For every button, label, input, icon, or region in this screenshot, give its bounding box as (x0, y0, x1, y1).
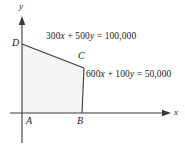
constraint-equation-2-label: 600x + 100y = 50,000 (86, 70, 171, 80)
vertex-label-D: D (12, 38, 19, 48)
eq2-var-x: x (101, 69, 105, 79)
vertex-label-C: C (78, 51, 85, 61)
constraint-equation-1-label: 300x + 500y = 100,000 (46, 32, 136, 42)
feasible-region-polygon (22, 44, 84, 113)
vertex-label-B: B (77, 116, 83, 126)
x-axis-arrowhead-icon (162, 110, 171, 117)
eq2-coef-x: 600 (86, 69, 101, 79)
x-axis-label: x (174, 108, 178, 117)
eq1-plus: + (67, 31, 72, 41)
eq2-coef-y: 100 (115, 69, 130, 79)
eq2-constant: 50,000 (145, 69, 172, 79)
eq1-equals: = (97, 31, 102, 41)
eq1-constant: 100,000 (105, 31, 137, 41)
y-axis-arrowhead-icon (19, 16, 26, 25)
eq1-var-x: x (61, 31, 65, 41)
y-axis-label: y (19, 2, 23, 11)
eq2-equals: = (137, 69, 142, 79)
eq1-var-y: y (90, 31, 94, 41)
eq2-plus: + (107, 69, 112, 79)
eq2-var-y: y (130, 69, 134, 79)
eq1-coef-y: 500 (75, 31, 90, 41)
eq1-coef-x: 300 (46, 31, 61, 41)
vertex-label-A: A (26, 116, 32, 126)
feasible-region-figure: D C A B y x 300x + 500y = 100,000 600x +… (0, 0, 185, 145)
